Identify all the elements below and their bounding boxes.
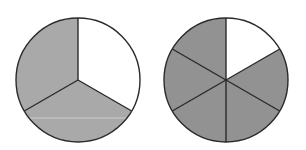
pie-thirds <box>16 18 140 142</box>
pie-sixths <box>164 18 288 142</box>
fraction-pies <box>0 0 306 150</box>
